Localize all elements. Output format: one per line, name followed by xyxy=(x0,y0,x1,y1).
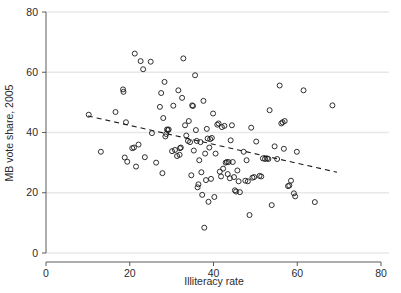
data-point xyxy=(212,194,217,199)
data-point xyxy=(136,142,141,147)
data-point xyxy=(206,199,211,204)
data-point xyxy=(197,158,202,163)
data-point xyxy=(172,147,177,152)
data-point xyxy=(254,139,259,144)
data-point xyxy=(201,98,206,103)
data-point-group xyxy=(86,51,335,230)
gridline-group xyxy=(46,12,389,253)
data-point xyxy=(249,125,254,130)
data-point xyxy=(193,73,198,78)
data-point xyxy=(312,200,317,205)
data-point xyxy=(186,119,191,124)
data-point xyxy=(113,110,118,115)
data-point xyxy=(203,151,208,156)
data-point xyxy=(154,160,159,165)
data-point xyxy=(247,213,252,218)
data-point xyxy=(330,103,335,108)
data-point xyxy=(183,123,188,128)
data-point xyxy=(176,88,181,93)
data-point xyxy=(204,126,209,131)
data-point xyxy=(281,146,286,151)
data-point xyxy=(161,116,166,121)
data-point xyxy=(181,56,186,61)
x-tick-label-0: 0 xyxy=(43,267,49,279)
data-point xyxy=(162,79,167,84)
data-point xyxy=(170,149,175,154)
data-point xyxy=(301,88,306,93)
data-point xyxy=(171,103,176,108)
y-tick-label-60: 60 xyxy=(26,66,38,78)
data-point xyxy=(229,123,234,128)
data-point xyxy=(191,148,196,153)
data-point xyxy=(202,225,207,230)
data-point xyxy=(160,171,165,176)
data-point xyxy=(294,149,299,154)
data-point xyxy=(277,83,282,88)
data-point xyxy=(196,182,201,187)
data-point xyxy=(217,169,222,174)
plot-canvas: 020406080 020406080 Illiteracy rate MB v… xyxy=(0,0,401,293)
data-point xyxy=(293,194,298,199)
data-point xyxy=(208,176,213,181)
data-point xyxy=(207,145,212,150)
data-point xyxy=(267,108,272,113)
data-point xyxy=(142,155,147,160)
data-point xyxy=(228,138,233,143)
data-point xyxy=(211,111,216,116)
data-point xyxy=(157,104,162,109)
y-tick-label-80: 80 xyxy=(26,6,38,18)
data-point xyxy=(269,203,274,208)
y-tick-label-0: 0 xyxy=(32,247,38,259)
data-point xyxy=(134,164,139,169)
data-point xyxy=(138,59,143,64)
data-point xyxy=(288,178,293,183)
x-axis-title: Illiteracy rate xyxy=(184,275,244,287)
data-point xyxy=(221,166,226,171)
x-tick-label-60: 60 xyxy=(291,267,303,279)
data-point xyxy=(241,149,246,154)
data-point xyxy=(148,59,153,64)
data-point xyxy=(98,149,103,154)
y-tick-label-40: 40 xyxy=(26,126,38,138)
y-axis-title: MB vote share, 2005 xyxy=(3,84,15,181)
data-point xyxy=(236,179,241,184)
tick-mark-group xyxy=(42,12,381,266)
data-point xyxy=(125,159,130,164)
data-point xyxy=(244,158,249,163)
data-point xyxy=(272,144,277,149)
data-point xyxy=(203,178,208,183)
data-point xyxy=(219,174,224,179)
scatter-plot-figure: 020406080 020406080 Illiteracy rate MB v… xyxy=(0,0,401,293)
data-point xyxy=(235,168,240,173)
data-point xyxy=(180,95,185,100)
x-tick-label-20: 20 xyxy=(124,267,136,279)
data-point xyxy=(213,151,218,156)
data-point xyxy=(141,67,146,72)
data-point xyxy=(199,170,204,175)
data-point xyxy=(184,133,189,138)
axis-line-group xyxy=(46,12,381,262)
data-point xyxy=(132,51,137,56)
data-point xyxy=(189,173,194,178)
data-point xyxy=(275,157,280,162)
y-tick-label-20: 20 xyxy=(26,186,38,198)
data-point xyxy=(159,91,164,96)
x-tick-label-80: 80 xyxy=(375,267,387,279)
y-tick-label-group: 020406080 xyxy=(26,6,38,259)
